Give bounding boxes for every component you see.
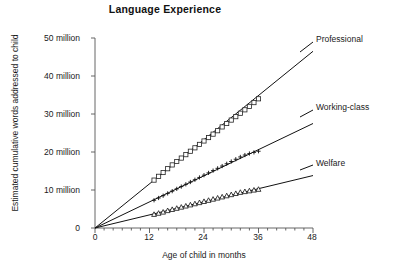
- data-point-professional-17: [170, 163, 174, 167]
- data-point-professional-29: [225, 121, 229, 125]
- data-point-working-class-20: [184, 182, 188, 186]
- chart-plot-svg: [0, 0, 394, 269]
- data-point-professional-20: [184, 153, 188, 157]
- data-point-professional-35: [252, 101, 256, 105]
- data-point-professional-25: [206, 135, 210, 139]
- data-point-professional-36: [256, 97, 260, 101]
- data-point-working-class-36: [256, 149, 260, 153]
- data-point-professional-22: [193, 146, 197, 150]
- data-point-working-class-19: [179, 184, 183, 188]
- data-point-professional-15: [161, 170, 165, 174]
- leader-working-class: [300, 110, 313, 117]
- data-point-professional-28: [220, 125, 224, 129]
- data-point-professional-27: [216, 129, 220, 133]
- data-point-working-class-17: [170, 189, 174, 193]
- data-point-professional-14: [156, 174, 160, 178]
- data-point-professional-19: [179, 156, 183, 160]
- data-point-professional-18: [175, 159, 179, 163]
- data-point-professional-21: [188, 149, 192, 153]
- data-point-professional-24: [202, 139, 206, 143]
- data-point-working-class-18: [175, 187, 179, 191]
- data-point-professional-33: [243, 108, 247, 112]
- data-point-professional-32: [238, 111, 242, 115]
- data-point-professional-13: [152, 178, 156, 182]
- leader-welfare: [300, 165, 313, 170]
- chart-series-group: [95, 42, 313, 228]
- data-point-professional-26: [211, 132, 215, 136]
- data-point-professional-30: [229, 118, 233, 122]
- data-point-working-class-32: [238, 155, 242, 159]
- leader-professional: [300, 42, 313, 52]
- chart-figure: Language Experience Estimated cumulative…: [0, 0, 394, 269]
- data-point-professional-23: [197, 142, 201, 146]
- data-point-professional-16: [166, 167, 170, 171]
- data-point-professional-34: [247, 104, 251, 108]
- data-point-professional-31: [234, 115, 238, 119]
